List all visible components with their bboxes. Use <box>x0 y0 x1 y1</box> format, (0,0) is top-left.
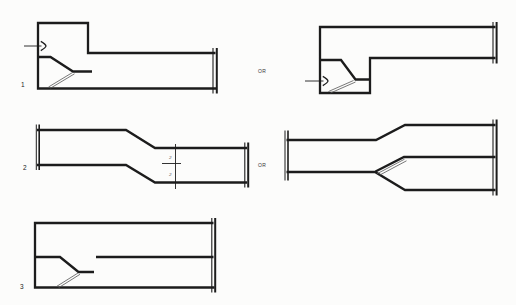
duct-top-outline <box>287 125 496 140</box>
figure-2-left-diagram <box>36 125 248 190</box>
duct-top-outline <box>37 130 247 148</box>
splitter-vane <box>38 57 92 72</box>
vane-plate-line <box>377 159 405 174</box>
splitter-vane <box>320 60 370 80</box>
duct-outline <box>35 223 215 288</box>
figure-2-label: 2 <box>23 164 27 171</box>
vane-plate-line <box>49 73 73 88</box>
or-separator-row2: OR <box>258 162 266 168</box>
duct-transition-diagram: 1 2 3 OR OR 2 2 <box>0 0 516 305</box>
figure-2-right-diagram <box>285 120 497 196</box>
vane-plate-line <box>329 81 354 92</box>
vane-plate-line <box>59 274 81 288</box>
offset-dimension-lower-label: 2 <box>169 172 172 177</box>
figure-1-left-diagram <box>24 23 217 94</box>
duct-outline <box>38 23 217 89</box>
vane-plate-line <box>51 74 75 88</box>
figure-1-label: 1 <box>21 81 25 88</box>
duct-bottom-outline <box>37 165 247 183</box>
diagram-page: 1 2 3 OR OR 2 2 <box>0 0 516 305</box>
duct-outline <box>320 27 496 93</box>
splitter-vane <box>376 157 496 172</box>
flow-arrow-icon <box>41 41 46 50</box>
vane-plate-line <box>331 82 356 93</box>
duct-bottom-outline <box>287 172 496 190</box>
vane-plate-line <box>57 273 79 287</box>
figure-3-label: 3 <box>20 283 24 290</box>
flow-arrow-icon <box>323 76 328 85</box>
figure-3-diagram <box>35 218 215 293</box>
splitter-vane <box>35 257 94 272</box>
or-separator-row1: OR <box>258 68 266 74</box>
offset-dimension-upper-label: 2 <box>169 155 172 160</box>
figure-1-right-diagram <box>305 22 497 93</box>
